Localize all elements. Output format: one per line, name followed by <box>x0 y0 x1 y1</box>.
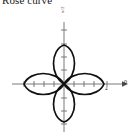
rose-curve-plot <box>0 0 133 136</box>
y-axis-label: π/2 <box>60 7 65 13</box>
x-axis-end-label: 0 <box>124 79 127 85</box>
figure-container: Rose curve <box>0 0 133 136</box>
x-axis-tick-label-4: 4 <box>105 86 108 91</box>
